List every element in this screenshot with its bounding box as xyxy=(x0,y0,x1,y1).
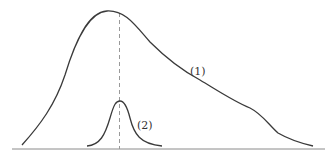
curve-2-label: (2) xyxy=(137,119,153,132)
distribution-diagram: (1) (2) xyxy=(0,0,334,161)
curve-1 xyxy=(22,11,313,146)
curve-1-label: (1) xyxy=(190,65,206,78)
